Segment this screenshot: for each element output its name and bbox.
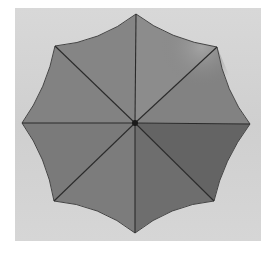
- umbrella-center-cap: [132, 120, 138, 126]
- umbrella-image: [0, 0, 273, 254]
- umbrella-canopy: [22, 14, 250, 233]
